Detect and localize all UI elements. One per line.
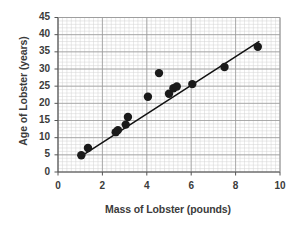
y-tick-label: 10 xyxy=(28,131,50,142)
x-tick-label: 2 xyxy=(92,180,112,191)
data-point xyxy=(173,82,181,90)
y-tick-label: 25 xyxy=(28,80,50,91)
y-tick-label: 35 xyxy=(28,45,50,56)
data-point xyxy=(122,120,130,128)
data-point xyxy=(114,126,122,134)
x-tick-label: 0 xyxy=(48,180,68,191)
data-point xyxy=(188,80,196,88)
y-tick-label: 20 xyxy=(28,97,50,108)
data-point xyxy=(220,63,228,71)
y-tick-label: 30 xyxy=(28,63,50,74)
y-tick-label: 15 xyxy=(28,114,50,125)
y-tick-label: 40 xyxy=(28,28,50,39)
lobster-scatter-chart: Age of Lobster (years) Mass of Lobster (… xyxy=(0,0,298,227)
x-tick-label: 6 xyxy=(181,180,201,191)
data-point xyxy=(254,42,262,50)
data-point xyxy=(77,151,85,159)
data-point xyxy=(84,144,92,152)
y-tick-label: 0 xyxy=(28,166,50,177)
y-tick-label: 5 xyxy=(28,148,50,159)
x-tick-label: 4 xyxy=(137,180,157,191)
x-tick-label: 10 xyxy=(270,180,290,191)
data-point xyxy=(144,93,152,101)
x-tick-label: 8 xyxy=(226,180,246,191)
data-point xyxy=(155,69,163,77)
y-tick-label: 45 xyxy=(28,11,50,22)
data-point xyxy=(124,113,132,121)
